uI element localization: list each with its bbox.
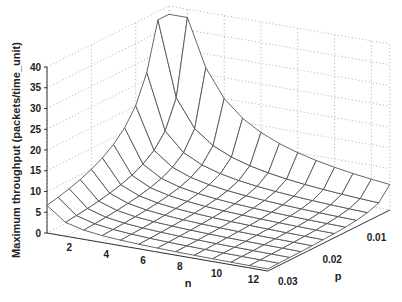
x-tick-label: 10	[211, 268, 223, 279]
z-axis-label: Maximum throughput (packets/time_unit)	[10, 42, 22, 258]
z-tick-label: 15	[30, 165, 42, 176]
x-tick-label: 8	[177, 261, 183, 272]
z-tick-label: 5	[35, 207, 41, 218]
z-tick-label: 10	[30, 186, 42, 197]
z-tick-label: 30	[30, 103, 42, 114]
x-tick-label: 12	[248, 274, 260, 285]
x-axis-label: n	[185, 277, 192, 289]
y-tick-label: 0.03	[278, 276, 298, 287]
y-tick-label: 0.02	[322, 254, 342, 265]
surface-plot: 0510152025303540246810120.010.020.03 Max…	[0, 0, 402, 302]
y-tick-label: 0.01	[367, 232, 387, 243]
z-tick-label: 0	[35, 228, 41, 239]
z-tick-label: 20	[30, 145, 42, 156]
surface-mesh	[47, 14, 390, 269]
x-tick-label: 6	[140, 255, 146, 266]
z-tick-label: 40	[30, 62, 42, 73]
y-axis-label: p	[335, 270, 342, 282]
z-tick-label: 35	[30, 82, 42, 93]
x-tick-label: 2	[67, 242, 73, 253]
z-tick-label: 25	[30, 124, 42, 135]
x-tick-label: 4	[103, 249, 109, 260]
